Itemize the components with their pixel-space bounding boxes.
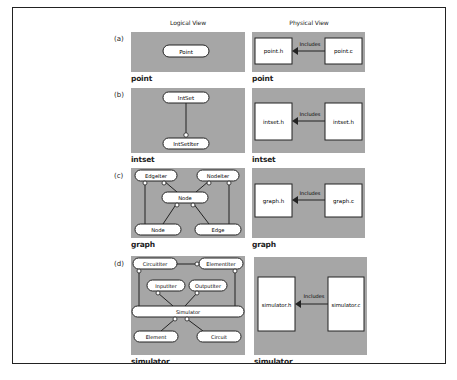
class-node-label: EdgeIter: [145, 173, 168, 180]
association-dot-icon: [156, 291, 160, 295]
association-dot-icon: [162, 181, 166, 185]
class-node-label: OutputIter: [195, 283, 222, 290]
logical-panel-graph: EdgeIter NodeIter Node Node Edge: [131, 168, 245, 238]
source-file-label: intset.h: [333, 119, 354, 125]
source-file-label: graph.c: [333, 198, 354, 205]
logical-caption-graph: graph: [131, 240, 155, 249]
header-file-label: graph.h: [263, 198, 285, 205]
class-node-label: CircuitIter: [143, 261, 169, 267]
arrow-head-icon: [295, 300, 301, 308]
physical-diagram-point: point.h point.c Includes: [252, 32, 365, 72]
logical-view-heading: Logical View: [130, 19, 246, 26]
physical-panel-intset: intset.h intset.h Includes: [252, 88, 365, 153]
class-node-label: NodeIter: [207, 173, 230, 179]
physical-diagram-graph: graph.h graph.c Includes: [252, 168, 365, 238]
row-tag-a: (a): [114, 35, 124, 43]
header-file-label: point.h: [264, 48, 284, 55]
class-node-label: InputIter: [155, 283, 177, 290]
logical-panel-simulator: CircuitIter ElementIter InputIter Output…: [131, 256, 245, 355]
class-node-label: ElementIter: [206, 261, 236, 267]
logical-caption-simulator: simulator: [131, 357, 169, 366]
association-dot-icon: [175, 203, 179, 207]
row-tag-b: (b): [114, 91, 124, 99]
class-node-label: IntSet: [178, 95, 195, 101]
class-node-label: Circuit: [211, 334, 227, 340]
association-dot-icon: [195, 262, 199, 266]
association-dot-icon: [227, 181, 231, 185]
association-dot-icon: [195, 291, 199, 295]
association-dot-icon: [233, 269, 237, 273]
physical-panel-point: point.h point.c Includes: [252, 32, 365, 72]
class-node-label: Element: [146, 334, 167, 340]
row-tag-d: (d): [114, 260, 124, 268]
row-tag-c: (c): [114, 172, 123, 180]
physical-diagram-intset: intset.h intset.h Includes: [252, 88, 365, 153]
physical-diagram-simulator: simulator.h simulator.c Includes: [254, 257, 367, 355]
logical-panel-point: Point: [131, 32, 245, 72]
physical-panel-graph: graph.h graph.c Includes: [252, 168, 365, 238]
includes-label: Includes: [300, 41, 321, 47]
header-file-label: intset.h: [263, 119, 284, 125]
arrow-head-icon: [292, 196, 298, 204]
arrow-head-icon: [292, 117, 298, 125]
logical-panel-intset: IntSet IntSetIter: [131, 88, 245, 153]
physical-view-heading: Physical View: [251, 19, 367, 26]
arrow-head-icon: [292, 47, 298, 55]
includes-label: Includes: [304, 293, 325, 299]
source-file-label: point.c: [334, 48, 353, 55]
association-dot-icon: [137, 269, 141, 273]
class-node-label: Edge: [211, 227, 224, 234]
association-dot-icon: [143, 181, 147, 185]
includes-label: Includes: [300, 111, 321, 117]
logical-diagram-graph: EdgeIter NodeIter Node Node Edge: [131, 168, 245, 238]
header-file-label: simulator.h: [262, 302, 292, 308]
logical-caption-point: point: [131, 74, 152, 83]
physical-caption-graph: graph: [252, 240, 276, 249]
association-dot-icon: [191, 203, 195, 207]
association-dot-icon: [207, 181, 211, 185]
association-dot-icon: [185, 317, 189, 321]
physical-caption-simulator: simulator: [254, 357, 292, 366]
logical-diagram-simulator: CircuitIter ElementIter InputIter Output…: [131, 256, 245, 355]
source-file-label: simulator.c: [331, 302, 360, 308]
logical-caption-intset: intset: [131, 155, 154, 164]
physical-caption-intset: intset: [252, 155, 275, 164]
association-dot-icon: [173, 317, 177, 321]
class-node-label: Node: [151, 227, 165, 233]
physical-panel-simulator: simulator.h simulator.c Includes: [254, 257, 367, 355]
logical-diagram-intset: IntSet IntSetIter: [131, 88, 245, 153]
logical-diagram-point: Point: [131, 32, 245, 72]
class-node-label: Simulator: [176, 309, 201, 315]
class-node-label: IntSetIter: [173, 141, 199, 147]
includes-label: Includes: [300, 190, 321, 196]
class-node-label: Node: [178, 195, 192, 201]
association-dot-icon: [184, 133, 188, 137]
class-node-label: Point: [179, 49, 193, 55]
physical-caption-point: point: [252, 74, 273, 83]
